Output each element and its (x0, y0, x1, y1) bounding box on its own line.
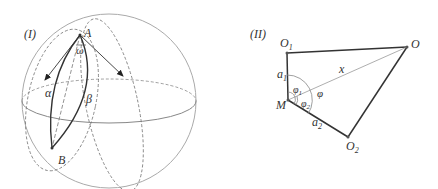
tangent-arrow-left (45, 35, 80, 80)
label-b: B (58, 153, 66, 167)
segment-a2 (288, 100, 348, 137)
label-o2: O2 (346, 139, 359, 155)
figure-quadrilateral: (II) O1 O M O2 a1 a2 x φ φ1 φ2 (250, 27, 420, 155)
label-phi: φ (317, 87, 323, 99)
angle-phi2-arc (296, 96, 298, 105)
point-m (287, 99, 290, 102)
label-beta: β (85, 92, 92, 106)
label-x: x (338, 62, 345, 76)
label-o1: O1 (280, 36, 293, 52)
point-a (79, 34, 82, 37)
label-m: M (275, 98, 287, 112)
figure-sphere: (I) A B α β ω (14, 14, 196, 189)
point-b (51, 147, 54, 150)
label-o: O (411, 37, 420, 51)
label-a: A (83, 26, 92, 40)
equator-front (22, 101, 196, 123)
label-a2: a2 (312, 115, 322, 131)
label-omega: ω (76, 44, 84, 56)
angle-phi2-arc-inner (294, 97, 295, 104)
panel-label-i: (I) (24, 27, 36, 41)
diagram-canvas: (I) A B α β ω (II) O1 O M O2 a1 a2 x φ φ… (0, 0, 438, 189)
label-a1: a1 (277, 67, 287, 83)
label-alpha: α (45, 86, 52, 100)
segment-a1 (287, 53, 288, 100)
sphere-outline (22, 14, 196, 188)
segment-o1-o (287, 47, 407, 53)
panel-label-ii: (II) (250, 27, 266, 41)
point-o (406, 46, 409, 49)
